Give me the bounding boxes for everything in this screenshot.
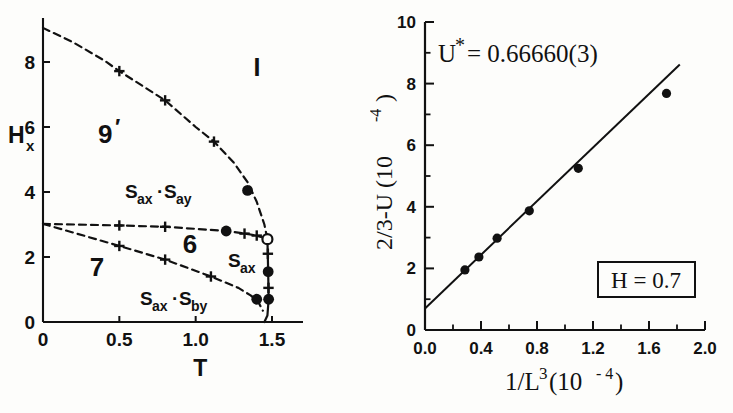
region-label-sax-say: Sax·Say <box>125 181 192 207</box>
cross-marker <box>252 230 262 240</box>
right-y-axis-label: 2/3-U (10-4 ) <box>370 94 397 250</box>
left-x-tick-label: 1.0 <box>182 329 208 350</box>
left-x-tick-label: 0 <box>38 329 49 350</box>
region-label-I: I <box>254 53 261 81</box>
svg-text:9: 9 <box>98 119 112 149</box>
right-x-tick-label: 0.0 <box>413 339 437 358</box>
filled-data-point <box>263 266 274 277</box>
svg-text:1/L: 1/L <box>505 368 540 395</box>
svg-text:·: · <box>157 181 163 202</box>
right-x-axis-label: 1/L3 (10- 4 ) <box>505 364 623 396</box>
right-y-tick-label: 6 <box>407 136 416 155</box>
left-y-tick-label: 2 <box>24 247 35 268</box>
svg-text:H: H <box>8 122 25 148</box>
svg-text:3: 3 <box>539 364 548 383</box>
right-y-tick-label: 8 <box>407 75 416 94</box>
boundary-curve <box>43 224 267 239</box>
right-y-tick-label: 2 <box>407 259 416 278</box>
data-point <box>574 164 583 173</box>
svg-text:(10: (10 <box>549 368 582 396</box>
figure-container: 00.51.01.502468THxI9′Sax·Say67SaxSax·Sby… <box>0 0 733 413</box>
field-value-box: H = 0.7 <box>598 262 695 297</box>
filled-data-point <box>263 294 274 305</box>
svg-text:): ) <box>615 368 623 396</box>
cross-marker <box>114 220 124 230</box>
series-middle-boundary-6 <box>43 220 267 240</box>
region-label-sax-sby: Sax·Sby <box>140 288 208 314</box>
data-point <box>460 265 469 274</box>
svg-text:- 4: - 4 <box>596 365 613 382</box>
data-point <box>662 89 671 98</box>
boundary-curve <box>43 28 267 239</box>
data-point <box>493 234 502 243</box>
svg-text:S: S <box>179 288 192 309</box>
cross-marker <box>160 254 170 264</box>
phase-diagram-panel: 00.51.01.502468THxI9′Sax·Say67SaxSax·Sby <box>0 0 370 413</box>
right-x-tick-label: 1.2 <box>581 339 605 358</box>
svg-text:ax: ax <box>240 260 256 276</box>
svg-text:′: ′ <box>115 114 120 139</box>
svg-text:S: S <box>228 250 241 271</box>
cross-marker <box>206 271 216 281</box>
filled-data-point <box>242 185 253 196</box>
right-x-tick-label: 0.8 <box>525 339 549 358</box>
svg-text:*: * <box>455 34 465 56</box>
svg-text:S: S <box>164 181 177 202</box>
svg-text:= 0.66660(3): = 0.66660(3) <box>467 40 598 68</box>
left-y-tick-label: 8 <box>24 52 35 73</box>
data-point <box>474 252 483 261</box>
svg-text:S: S <box>125 181 138 202</box>
right-x-tick-label: 2.0 <box>693 339 717 358</box>
svg-text:by: by <box>191 298 208 314</box>
region-label-7: 7 <box>90 252 104 282</box>
svg-text:U: U <box>438 40 456 67</box>
region-label-sax: Sax <box>228 250 256 276</box>
right-y-tick-label: 4 <box>407 198 417 217</box>
left-y-tick-label: 0 <box>24 312 35 333</box>
scatter-points <box>460 89 671 275</box>
field-box-label: H = 0.7 <box>611 268 681 293</box>
filled-data-point <box>251 294 262 305</box>
left-y-tick-label: 6 <box>24 117 35 138</box>
right-y-tick-label: 10 <box>397 13 416 32</box>
cross-marker <box>160 222 170 232</box>
series-critical-line-vertical <box>262 234 274 322</box>
svg-text:2/3-U (10: 2/3-U (10 <box>371 156 397 250</box>
svg-text:ax: ax <box>137 191 153 207</box>
right-x-tick-label: 1.6 <box>637 339 661 358</box>
cross-marker <box>263 249 273 259</box>
left-x-tick-label: 1.5 <box>259 329 286 350</box>
cross-marker <box>114 66 124 76</box>
left-x-tick-label: 0.5 <box>106 329 133 350</box>
svg-text:): ) <box>371 94 397 102</box>
region-label-9prime: 9′ <box>98 114 120 149</box>
data-point <box>525 206 534 215</box>
u-star-annotation: U* = 0.66660(3) <box>438 34 598 68</box>
svg-text:S: S <box>140 288 153 309</box>
svg-text:x: x <box>26 137 35 154</box>
svg-text:ax: ax <box>152 298 168 314</box>
cross-marker <box>239 228 249 238</box>
svg-text:-4: -4 <box>370 109 384 122</box>
open-data-point <box>262 234 272 244</box>
svg-text:·: · <box>172 288 178 309</box>
left-y-tick-label: 4 <box>24 182 35 203</box>
scaling-plot-panel: 0.00.40.81.21.62.00246810U* = 0.66660(3)… <box>370 0 733 413</box>
region-label-6: 6 <box>183 229 197 259</box>
filled-data-point <box>221 226 232 237</box>
svg-text:ay: ay <box>176 191 192 207</box>
right-y-tick-label: 0 <box>407 321 416 340</box>
cross-marker <box>263 283 273 293</box>
left-x-axis-label: T <box>193 355 207 381</box>
right-x-tick-label: 0.4 <box>469 339 493 358</box>
cross-marker <box>114 241 124 251</box>
series-upper-boundary-9prime-I <box>43 28 267 239</box>
